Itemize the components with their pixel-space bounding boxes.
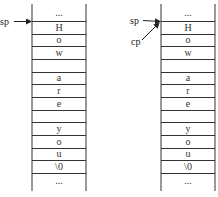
right-cell-5: a bbox=[186, 72, 191, 83]
left-cell-10: o bbox=[57, 136, 62, 147]
right-sp-arrow bbox=[143, 21, 160, 22]
left-cell-1: H bbox=[55, 22, 62, 33]
right-cell-0: ... bbox=[184, 7, 192, 18]
right-cell-11: u bbox=[186, 148, 191, 159]
right-cell-6: r bbox=[186, 85, 190, 96]
right-cell-13: ... bbox=[184, 175, 192, 186]
right-cell-9: y bbox=[186, 123, 191, 134]
right-sp-label: sp bbox=[130, 15, 139, 26]
right-cell-12: \0 bbox=[184, 161, 192, 172]
left-cell-9: y bbox=[57, 123, 62, 134]
left-cell-3: w bbox=[55, 47, 63, 58]
left-cell-11: u bbox=[57, 148, 62, 159]
right-cp-arrow bbox=[142, 23, 159, 40]
left-cell-6: r bbox=[57, 85, 61, 96]
left-cell-5: a bbox=[57, 72, 62, 83]
stack-diagram: ... H o w a r e y o u \0 ... sp bbox=[0, 0, 218, 197]
right-stack: ... H o w a r e y o u \0 ... sp cp bbox=[130, 4, 215, 191]
left-sp-label: sp bbox=[0, 16, 9, 27]
left-cell-12: \0 bbox=[55, 161, 63, 172]
left-cell-0: ... bbox=[55, 7, 63, 18]
right-cell-3: w bbox=[184, 47, 192, 58]
right-cell-7: e bbox=[186, 98, 191, 109]
left-cell-7: e bbox=[57, 98, 62, 109]
left-cell-2: o bbox=[57, 34, 62, 45]
left-stack: ... H o w a r e y o u \0 ... sp bbox=[0, 4, 86, 191]
right-cell-2: o bbox=[186, 34, 191, 45]
right-cell-10: o bbox=[186, 136, 191, 147]
left-cell-13: ... bbox=[55, 175, 63, 186]
right-cp-label: cp bbox=[131, 36, 140, 47]
right-cell-1: H bbox=[184, 22, 191, 33]
